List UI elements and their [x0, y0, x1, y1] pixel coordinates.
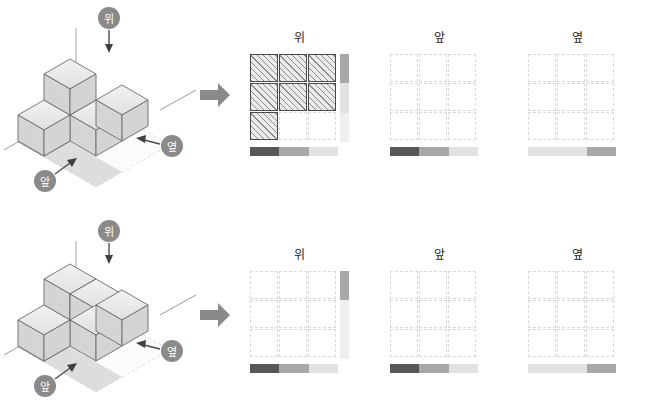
grid-cell-r2-c1[interactable] — [528, 300, 556, 328]
grid-side-1[interactable] — [528, 54, 616, 142]
callout-top-2: 위 — [98, 220, 120, 264]
callout-top-label-2: 위 — [104, 226, 114, 239]
grid-cell-r1-c3[interactable] — [308, 54, 336, 82]
bar-segment-2 — [419, 147, 448, 156]
grid-cell-r3-c1[interactable] — [390, 112, 418, 140]
view-panel-top-1: 위 — [245, 28, 355, 178]
callout-top-label-1: 위 — [104, 13, 114, 26]
grid-cell-r2-c2[interactable] — [557, 300, 585, 328]
grid-cell-r3-c3[interactable] — [308, 329, 336, 357]
grid-cell-r1-c2[interactable] — [419, 271, 447, 299]
grid-cell-r3-c3[interactable] — [586, 329, 614, 357]
problem-row-1: 위 옆 앞 위 — [0, 0, 646, 205]
grid-cell-r3-c3[interactable] — [308, 112, 336, 140]
grid-cell-r2-c3[interactable] — [586, 83, 614, 111]
grid-cell-r2-c1[interactable] — [390, 300, 418, 328]
grid-cell-r2-c1[interactable] — [528, 83, 556, 111]
view-panel-front-1: 앞 — [385, 28, 495, 178]
bar-segment-1 — [340, 54, 349, 83]
grid-cell-r1-c1[interactable] — [528, 271, 556, 299]
bottom-measure-bar-front-1 — [390, 147, 478, 156]
bar-segment-2 — [419, 364, 448, 373]
grid-cell-r2-c2[interactable] — [279, 83, 307, 111]
problem-row-2: 위 옆 앞 위 앞 — [0, 205, 646, 410]
grid-front-2[interactable] — [390, 271, 478, 359]
view-panel-front-2: 앞 — [385, 245, 495, 395]
grid-cell-r2-c3[interactable] — [308, 300, 336, 328]
bar-segment-3 — [309, 364, 338, 373]
transform-arrow-icon-1 — [198, 80, 232, 110]
bar-segment-1 — [250, 147, 279, 156]
grid-cell-r1-c2[interactable] — [279, 271, 307, 299]
bar-segment-2 — [340, 83, 349, 112]
grid-cell-r1-c3[interactable] — [308, 271, 336, 299]
callout-side-label-1: 옆 — [167, 141, 177, 154]
view-panel-side-1: 옆 — [523, 28, 633, 178]
bottom-measure-bar-front-2 — [390, 364, 478, 373]
grid-cell-r1-c3[interactable] — [586, 271, 614, 299]
grid-cell-r2-c3[interactable] — [586, 300, 614, 328]
grid-cell-r2-c3[interactable] — [448, 83, 476, 111]
grid-cell-r2-c1[interactable] — [390, 83, 418, 111]
grid-cell-r2-c2[interactable] — [279, 300, 307, 328]
grid-cell-r2-c2[interactable] — [557, 83, 585, 111]
bar-segment-3 — [587, 364, 616, 373]
grid-cell-r1-c3[interactable] — [448, 54, 476, 82]
grid-top-1[interactable] — [250, 54, 338, 142]
grid-cell-r1-c1[interactable] — [390, 271, 418, 299]
grid-top-2[interactable] — [250, 271, 338, 359]
bottom-measure-bar-side-1 — [528, 147, 616, 156]
grid-cell-r3-c3[interactable] — [448, 329, 476, 357]
grid-cell-r1-c1[interactable] — [390, 54, 418, 82]
grid-cell-r1-c3[interactable] — [448, 271, 476, 299]
bar-segment-3 — [587, 147, 616, 156]
bar-segment-2 — [279, 364, 308, 373]
grid-front-1[interactable] — [390, 54, 478, 142]
grid-cell-r2-c2[interactable] — [419, 300, 447, 328]
bottom-measure-bar-side-2 — [528, 364, 616, 373]
bar-segment-1 — [390, 147, 419, 156]
grid-cell-r2-c3[interactable] — [308, 83, 336, 111]
grid-cell-r2-c2[interactable] — [419, 83, 447, 111]
grid-cell-r3-c3[interactable] — [586, 112, 614, 140]
bar-segment-2 — [557, 147, 586, 156]
grid-cell-r1-c1[interactable] — [250, 54, 278, 82]
grid-cell-r1-c3[interactable] — [586, 54, 614, 82]
bottom-measure-bar-top-1 — [250, 147, 338, 156]
grid-cell-r1-c2[interactable] — [279, 54, 307, 82]
bar-segment-1 — [528, 147, 557, 156]
grid-cell-r1-c2[interactable] — [419, 54, 447, 82]
view-title-side-2: 옆 — [523, 245, 633, 262]
grid-cell-r3-c2[interactable] — [279, 329, 307, 357]
bar-segment-1 — [340, 271, 349, 300]
bar-segment-1 — [390, 364, 419, 373]
grid-cell-r1-c2[interactable] — [557, 271, 585, 299]
grid-cell-r3-c2[interactable] — [419, 112, 447, 140]
grid-cell-r3-c1[interactable] — [250, 329, 278, 357]
grid-cell-r1-c2[interactable] — [557, 54, 585, 82]
grid-cell-r3-c1[interactable] — [528, 329, 556, 357]
grid-side-2[interactable] — [528, 271, 616, 359]
grid-cell-r1-c1[interactable] — [250, 271, 278, 299]
isometric-scene-2: 위 옆 앞 — [0, 205, 225, 410]
grid-cell-r3-c2[interactable] — [279, 112, 307, 140]
grid-cell-r1-c1[interactable] — [528, 54, 556, 82]
bar-segment-3 — [449, 147, 478, 156]
grid-cell-r2-c1[interactable] — [250, 300, 278, 328]
grid-cell-r3-c2[interactable] — [557, 112, 585, 140]
bottom-measure-bar-top-2 — [250, 364, 338, 373]
grid-cell-r3-c3[interactable] — [448, 112, 476, 140]
view-title-front-2: 앞 — [385, 245, 495, 262]
grid-cell-r2-c1[interactable] — [250, 83, 278, 111]
grid-cell-r3-c2[interactable] — [557, 329, 585, 357]
grid-cell-r3-c1[interactable] — [250, 112, 278, 140]
bar-segment-1 — [528, 364, 557, 373]
grid-cell-r3-c2[interactable] — [419, 329, 447, 357]
bar-segment-3 — [449, 364, 478, 373]
grid-cell-r2-c3[interactable] — [448, 300, 476, 328]
grid-cell-r3-c1[interactable] — [528, 112, 556, 140]
bar-segment-2 — [557, 364, 586, 373]
grid-cell-r3-c1[interactable] — [390, 329, 418, 357]
view-title-top-1: 위 — [245, 28, 355, 45]
bar-segment-3 — [340, 113, 349, 142]
